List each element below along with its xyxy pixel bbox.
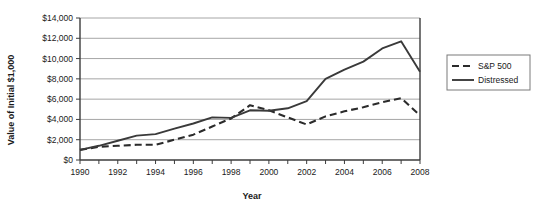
x-tick-label: 2006 [373,167,392,177]
y-tick-label: $8,000 [47,74,73,84]
line-chart: $0$2,000$4,000$6,000$8,000$10,000$12,000… [0,0,534,205]
chart-container: $0$2,000$4,000$6,000$8,000$10,000$12,000… [0,0,534,205]
legend-label-2: Distressed [478,75,518,85]
y-tick-label: $6,000 [47,94,73,104]
series-line-distressed [80,41,420,150]
x-tick-label: 1998 [222,167,241,177]
x-tick-labels: 1990199219941996199820002002200420062008 [71,160,430,177]
x-tick-label: 2008 [411,167,430,177]
legend-label-1: S&P 500 [478,61,512,71]
y-axis-title: Value of Initial $1,000 [6,55,16,146]
x-tick-label: 1996 [184,167,203,177]
x-axis-title: Year [242,191,262,201]
x-tick-label: 1992 [108,167,127,177]
x-tick-label: 2002 [297,167,316,177]
x-tick-label: 2004 [335,167,354,177]
y-tick-label: $12,000 [42,33,73,43]
y-tick-label: $14,000 [42,13,73,23]
x-axis [80,18,420,160]
data-series-group [80,41,420,150]
x-tick-label: 1994 [146,167,165,177]
legend: S&P 500Distressed [447,55,530,90]
y-tick-labels: $0$2,000$4,000$6,000$8,000$10,000$12,000… [42,13,80,165]
gridlines-group [80,18,420,140]
y-tick-label: $4,000 [47,114,73,124]
y-tick-label: $0 [64,155,74,165]
x-tick-label: 1990 [71,167,90,177]
y-tick-label: $2,000 [47,135,73,145]
x-tick-label: 2000 [259,167,278,177]
series-line-s-p-500 [80,98,420,150]
y-tick-label: $10,000 [42,54,73,64]
